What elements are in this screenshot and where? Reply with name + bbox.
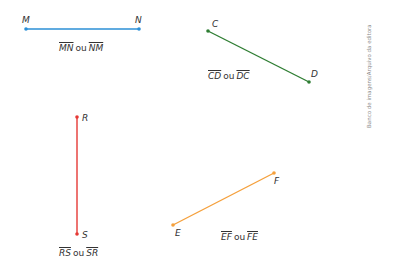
point-r-label: R (82, 113, 88, 123)
segment-ef-line (173, 173, 274, 225)
point-m-dot (24, 27, 28, 31)
point-n-label: N (135, 15, 142, 25)
connector-text: ou (234, 232, 245, 242)
segment-name-rs: RS (59, 248, 71, 258)
segment-rs: R S (75, 113, 88, 240)
connector-text: ou (73, 248, 84, 258)
point-m-label: M (22, 15, 30, 25)
segment-name-sr: SR (86, 248, 98, 258)
geometry-diagram: M N C D R S E F (0, 0, 395, 271)
segment-name-ef: EF (221, 232, 232, 242)
point-s-label: S (82, 230, 88, 240)
point-c-label: C (212, 19, 219, 29)
connector-text: ou (76, 43, 87, 53)
segment-name-dc: DC (236, 71, 249, 81)
segment-name-cd: CD (208, 71, 221, 81)
point-c-dot (206, 29, 210, 33)
segment-name-nm: NM (89, 43, 104, 53)
point-n-dot (137, 27, 141, 31)
point-e-dot (171, 223, 175, 227)
caption-rs: RSouSR (59, 248, 98, 259)
point-f-dot (272, 171, 276, 175)
caption-ef: EFouFE (221, 232, 258, 243)
point-f-label: F (274, 176, 280, 186)
segment-ef: E F (171, 171, 280, 238)
segment-name-mn: MN (59, 43, 74, 53)
caption-cd: CDouDC (208, 71, 250, 82)
caption-mn: MNouNM (59, 43, 103, 54)
segment-name-fe: FE (247, 232, 258, 242)
point-e-label: E (175, 228, 181, 238)
point-r-dot (75, 115, 79, 119)
point-s-dot (75, 232, 79, 236)
point-d-label: D (311, 69, 318, 79)
segment-mn: M N (22, 15, 142, 31)
point-d-dot (307, 80, 311, 84)
image-credit: Banco de imagens/Arquivo da editora (366, 24, 372, 128)
connector-text: ou (223, 71, 234, 81)
